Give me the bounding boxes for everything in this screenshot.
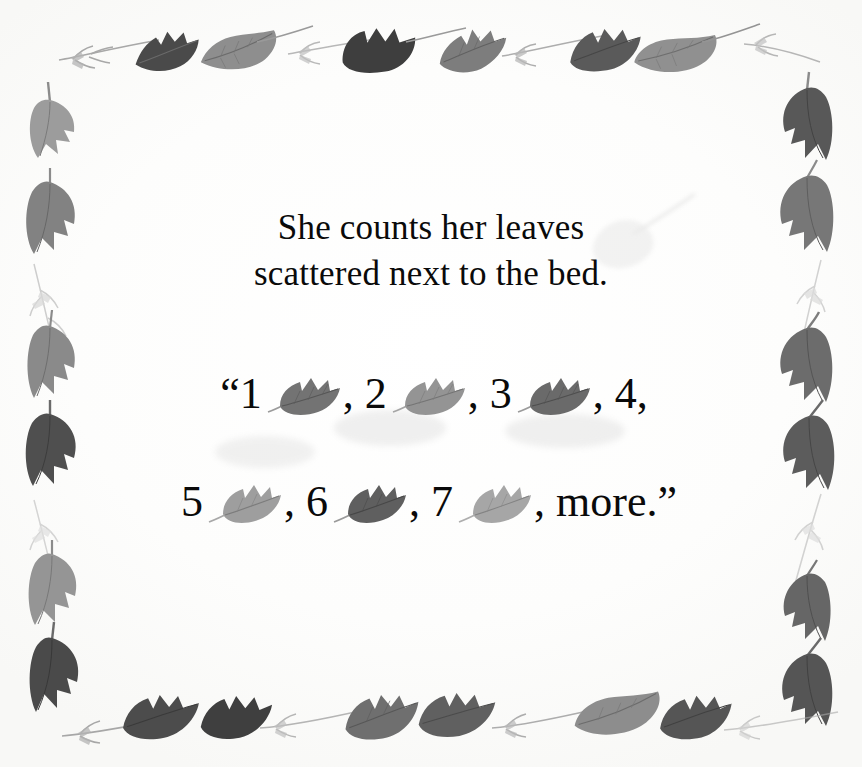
separator-7: , [534,477,556,526]
count-number-1: 1 [240,369,262,418]
picture-book-page: She counts her leaves scattered next to … [0,0,862,767]
counting-line-2: 5 , 6 , 7 [0,448,862,556]
leaf-icon [22,80,84,170]
border-bottom [0,662,862,767]
count-number-5: 5 [181,477,203,526]
leaf-icon [207,482,283,528]
open-quote: “ [220,369,240,418]
border-top [0,0,862,100]
leaf-icon [777,560,839,648]
leaf-icon [391,374,467,420]
count-number-6: 6 [306,477,328,526]
leaf-icon [116,686,207,747]
leaf-icon [332,482,408,528]
verse-text-block: She counts her leaves scattered next to … [0,205,862,297]
counting-text-block: “1 , 2 , 3 [0,340,862,556]
leaf-icon [266,374,342,420]
separator-3: , [593,369,615,418]
leaf-icon [457,482,533,528]
count-number-3: 3 [490,369,512,418]
counting-line-1: “1 , 2 , 3 [0,340,862,448]
verse-line-1: She counts her leaves [0,205,862,251]
count-number-4: 4, [615,369,648,418]
leaf-icon [412,685,501,743]
close-quote: ” [657,477,677,526]
leaf-icon [516,374,592,420]
verse-line-2: scattered next to the bed. [0,251,862,297]
count-number-7: 7 [431,477,453,526]
count-number-2: 2 [365,369,387,418]
separator-6: , [409,477,431,526]
separator-2: , [468,369,490,418]
separator-1: , [343,369,365,418]
leaf-icon [568,686,668,746]
separator-5: , [284,477,306,526]
final-word: more. [556,477,657,526]
twig-sprig-icon [722,698,842,742]
leaf-icon [775,72,841,168]
